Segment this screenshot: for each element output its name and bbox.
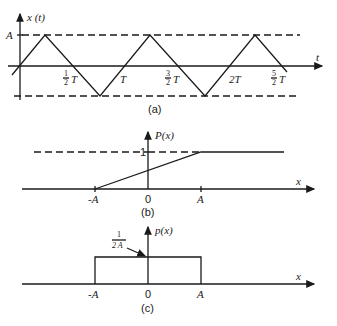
panel-a: x (t) A t 1 2 T T 3 2 T 2T 5 2 T (a) xyxy=(5,11,322,115)
svg-text:1: 1 xyxy=(117,230,121,239)
a-y-label: x (t) xyxy=(26,11,45,24)
b-x-label: x xyxy=(295,175,301,187)
b-cdf-curve xyxy=(95,152,284,189)
svg-text:2: 2 xyxy=(64,78,68,87)
figure-canvas: x (t) A t 1 2 T T 3 2 T 2T 5 2 T (a) xyxy=(0,0,337,326)
c-caption: (c) xyxy=(141,302,154,314)
c-height-label: 1 2 A xyxy=(112,230,126,250)
a-tick-2T: 2T xyxy=(229,73,242,85)
panel-b: P(x) 1 x -A 0 A (b) xyxy=(22,129,314,218)
c-tick-label-neg-A: -A xyxy=(88,288,99,300)
a-tick-half-T: 1 2 T xyxy=(63,69,78,87)
svg-text:2: 2 xyxy=(272,78,276,87)
a-tick-three-half-T: 3 2 T xyxy=(165,69,180,87)
b-y-label: P(x) xyxy=(154,129,174,142)
a-t-label: t xyxy=(316,51,320,63)
c-tick-label-A: A xyxy=(196,288,204,300)
svg-text:T: T xyxy=(279,73,286,85)
svg-text:T: T xyxy=(71,73,78,85)
a-caption: (a) xyxy=(148,103,161,115)
c-tick-label-zero: 0 xyxy=(145,288,151,300)
a-amplitude-label: A xyxy=(5,29,13,41)
svg-text:1: 1 xyxy=(64,69,68,78)
a-tick-five-half-T: 5 2 T xyxy=(271,69,286,87)
b-tick-label-A: A xyxy=(196,193,204,205)
svg-text:T: T xyxy=(173,73,180,85)
b-tick-label-zero: 0 xyxy=(145,193,151,205)
c-x-label: x xyxy=(295,270,301,282)
b-tick-label-neg-A: -A xyxy=(88,193,99,205)
panel-c: 1 2 A p(x) x -A 0 A (c) xyxy=(22,224,314,314)
b-caption: (b) xyxy=(141,206,154,218)
c-y-label: p(x) xyxy=(154,224,173,237)
svg-text:5: 5 xyxy=(272,69,276,78)
svg-text:3: 3 xyxy=(166,69,170,78)
b-level-label: 1 xyxy=(140,146,146,158)
svg-text:2 A: 2 A xyxy=(112,241,123,250)
svg-text:2: 2 xyxy=(166,78,170,87)
a-tick-T: T xyxy=(120,73,127,85)
c-height-arrow xyxy=(127,248,145,256)
